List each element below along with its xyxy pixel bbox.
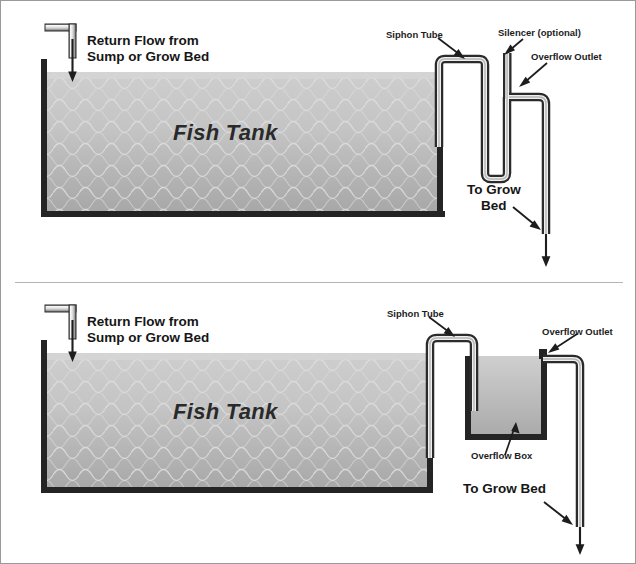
label-return-flow-bottom: Return Flow from Sump or Grow Bed [87,314,209,345]
label-siphon-tube-top: Siphon Tube [386,30,443,41]
label-overflow-box: Overflow Box [471,451,532,462]
label-fish-tank-top: Fish Tank [173,120,278,145]
siphon-tube [439,59,485,173]
label-overflow-outlet-bottom: Overflow Outlet [542,327,613,338]
return-flow-pipe [45,24,76,58]
diagram-frame: Return Flow from Sump or Grow Bed Fish T… [0,0,636,564]
label-return-flow-top: Return Flow from Sump or Grow Bed [87,33,209,64]
return-flow-pipe [45,305,76,339]
label-to-grow-bed-bottom: To Grow Bed [463,481,546,497]
silencer-tube [503,53,512,99]
overflow-outlet-leader [519,63,547,87]
panel-silencer-standpipe: Return Flow from Sump or Grow Bed Fish T… [1,1,636,283]
label-silencer-optional: Silencer (optional) [498,28,581,39]
overflow-box-water [471,356,541,438]
label-fish-tank-bottom: Fish Tank [173,399,278,424]
silencer-leader [504,39,523,55]
label-siphon-tube-bottom: Siphon Tube [387,309,444,320]
panel-overflow-box: Return Flow from Sump or Grow Bed Fish T… [1,283,636,564]
overflow-outlet-pipe [509,97,546,234]
label-to-grow-bed-top: To Grow Bed [467,182,521,213]
label-overflow-outlet-top: Overflow Outlet [531,52,602,63]
